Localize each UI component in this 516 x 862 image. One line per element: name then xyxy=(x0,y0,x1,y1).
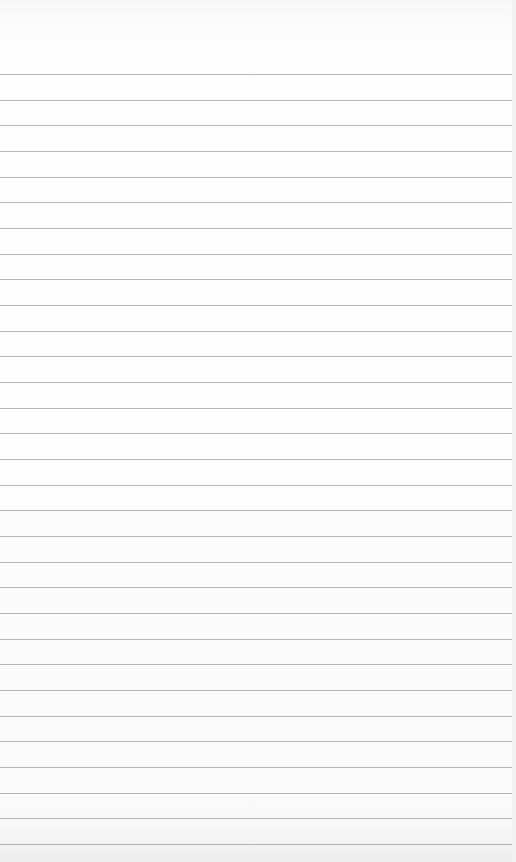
ruled-line xyxy=(0,459,512,460)
ruled-line xyxy=(0,510,512,511)
ruled-line xyxy=(0,793,512,794)
ruled-line xyxy=(0,279,512,280)
ruled-line xyxy=(0,228,512,229)
paper-edge xyxy=(512,0,516,862)
ruled-line xyxy=(0,485,512,486)
ruled-line xyxy=(0,664,512,665)
ruled-line xyxy=(0,125,512,126)
ruled-line xyxy=(0,356,512,357)
ruled-line xyxy=(0,408,512,409)
ruled-line xyxy=(0,254,512,255)
ruled-line xyxy=(0,305,512,306)
ruled-line xyxy=(0,151,512,152)
ruled-line xyxy=(0,613,512,614)
ruled-line xyxy=(0,587,512,588)
ruled-line xyxy=(0,177,512,178)
ruled-line xyxy=(0,74,512,75)
lined-paper xyxy=(0,0,516,862)
ruled-line xyxy=(0,562,512,563)
ruled-line xyxy=(0,716,512,717)
ruled-line xyxy=(0,844,512,845)
ruled-line xyxy=(0,639,512,640)
ruled-line xyxy=(0,536,512,537)
ruled-line xyxy=(0,100,512,101)
ruled-line xyxy=(0,433,512,434)
ruled-line xyxy=(0,741,512,742)
ruled-line xyxy=(0,818,512,819)
ruled-line xyxy=(0,331,512,332)
ruled-line xyxy=(0,202,512,203)
ruled-line xyxy=(0,767,512,768)
ruled-line xyxy=(0,382,512,383)
ruled-line xyxy=(0,690,512,691)
